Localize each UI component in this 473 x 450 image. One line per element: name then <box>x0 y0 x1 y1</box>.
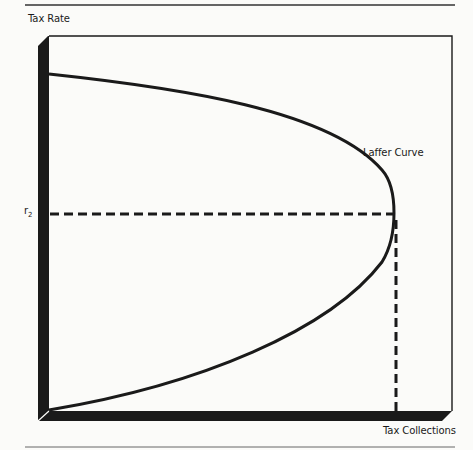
plot-frame <box>49 36 452 411</box>
y-axis-bar <box>38 36 49 421</box>
r2-label-sub: 2 <box>28 211 32 219</box>
x-axis-label: Tax Collections <box>383 425 456 436</box>
laffer-curve-diagram <box>0 0 473 450</box>
y-axis-label: Tax Rate <box>28 13 70 24</box>
r2-label: r2 <box>24 205 32 219</box>
curve-label: Laffer Curve <box>363 147 424 158</box>
laffer-curve-line <box>49 74 394 410</box>
x-axis-bar <box>38 411 452 421</box>
